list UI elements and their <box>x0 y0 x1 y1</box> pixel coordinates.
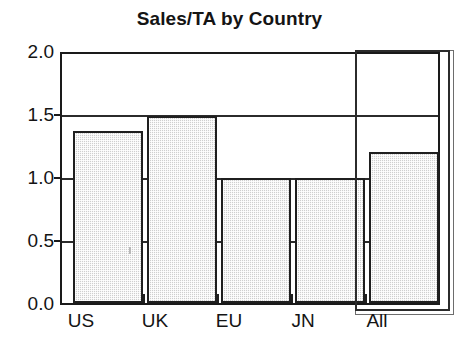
x-label-uk: UK <box>120 311 190 330</box>
all-highlight-box <box>355 50 450 311</box>
x-label-us: US <box>46 311 116 330</box>
x-label-all: All <box>342 311 412 330</box>
x-tick-mark-2 <box>217 294 219 303</box>
chart-figure: Sales/TA by Country 2.0 1.5 1.0 0.5 0.0 … <box>0 0 459 348</box>
y-tick-label-1-0: 1.0 <box>0 168 54 187</box>
x-label-jn: JN <box>268 311 338 330</box>
x-tick-mark-3 <box>291 294 293 303</box>
bar-eu[interactable] <box>221 178 291 303</box>
x-tick-mark-1 <box>143 294 145 303</box>
x-label-eu: EU <box>194 311 264 330</box>
y-tick-label-2-0: 2.0 <box>0 42 54 61</box>
bar-us[interactable] <box>73 131 143 303</box>
chart-title: Sales/TA by Country <box>0 8 459 30</box>
scan-artifact <box>129 247 131 254</box>
bar-uk[interactable] <box>147 116 217 303</box>
y-tick-label-1-5: 1.5 <box>0 105 54 124</box>
y-tick-label-0-5: 0.5 <box>0 231 54 250</box>
